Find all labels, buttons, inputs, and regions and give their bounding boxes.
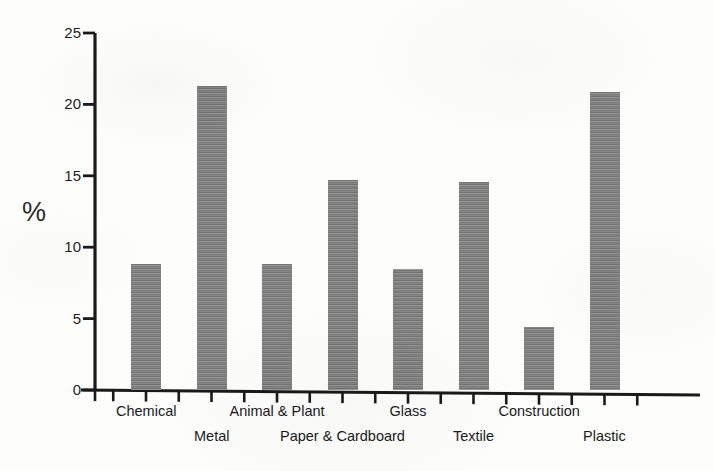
bar-animal-plant: [262, 264, 292, 390]
y-tick-label-1: 5: [47, 310, 81, 327]
y-tick-label-3: 15: [47, 167, 81, 184]
bar-chemical: [131, 264, 161, 390]
bar-construction: [524, 327, 554, 390]
category-label-animal-plant: Animal & Plant: [230, 403, 325, 419]
bar-plastic: [590, 92, 620, 390]
category-label-plastic: Plastic: [583, 428, 626, 444]
bar-glass: [393, 269, 423, 390]
category-label-chemical: Chemical: [116, 403, 176, 419]
category-label-glass: Glass: [390, 403, 427, 419]
y-tick-label-5: 25: [47, 24, 81, 41]
y-axis-title: %: [22, 197, 46, 228]
y-tick-label-2: 10: [47, 238, 81, 255]
bar-textile: [459, 182, 489, 390]
y-tick-label-0: 0: [47, 381, 81, 398]
category-label-metal: Metal: [194, 428, 229, 444]
x-axis-line: [81, 390, 700, 395]
bar-chart: % 0 5 10 15 20 25 ChemicalMetalAnimal & …: [0, 0, 714, 471]
category-label-paper-cardboard: Paper & Cardboard: [280, 428, 405, 444]
bar-metal: [197, 86, 227, 390]
bar-paper-cardboard: [328, 180, 358, 390]
category-label-construction: Construction: [499, 403, 580, 419]
y-tick-label-4: 20: [47, 95, 81, 112]
category-label-textile: Textile: [453, 428, 494, 444]
